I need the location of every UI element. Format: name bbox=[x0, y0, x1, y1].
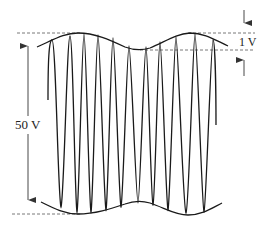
carrier-wave bbox=[48, 34, 216, 213]
upper-envelope bbox=[37, 33, 228, 50]
ripple-label: 1 V bbox=[238, 35, 257, 49]
peak-to-peak-label: 50 V bbox=[14, 118, 41, 132]
modulated-waveform-diagram bbox=[0, 0, 275, 227]
lower-envelope bbox=[41, 201, 222, 215]
